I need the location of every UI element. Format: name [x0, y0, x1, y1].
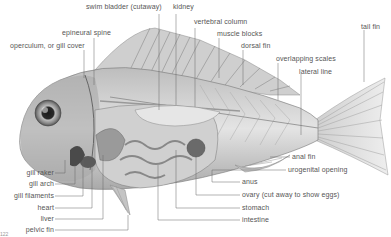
- label-gill-arch: gill arch: [0, 180, 54, 188]
- label-gill-filaments: gill filaments: [0, 192, 54, 200]
- label-tail-fin: tail fin: [361, 23, 380, 31]
- fish-illustration: [0, 0, 391, 237]
- label-anus: anus: [242, 178, 258, 186]
- label-kidney: kidney: [173, 3, 194, 11]
- label-operculum: operculum, or gill cover: [10, 42, 85, 50]
- label-gill-raker: gill raker: [0, 169, 54, 177]
- label-anal-fin: anal fin: [292, 153, 315, 161]
- fish-anatomy-diagram: swim bladder (cutaway) kidney vertebral …: [0, 0, 391, 237]
- label-swim-bladder: swim bladder (cutaway): [86, 3, 162, 11]
- label-lateral-line: lateral line: [299, 68, 332, 76]
- label-overlapping-scales: overlapping scales: [276, 55, 336, 63]
- label-intestine: intestine: [242, 216, 269, 224]
- label-epineural-spine: epineural spine: [62, 29, 111, 37]
- label-urogenital-opening: urogenital opening: [288, 166, 347, 174]
- label-heart: heart: [0, 204, 54, 212]
- label-muscle-blocks: muscle blocks: [217, 30, 262, 38]
- page-number: 122: [0, 231, 8, 237]
- label-stomach: stomach: [242, 204, 269, 212]
- label-liver: liver: [0, 215, 54, 223]
- label-dorsal-fin: dorsal fin: [241, 42, 270, 50]
- label-ovary: ovary (cut away to show eggs): [242, 191, 339, 199]
- label-vertebral-column: vertebral column: [194, 18, 247, 26]
